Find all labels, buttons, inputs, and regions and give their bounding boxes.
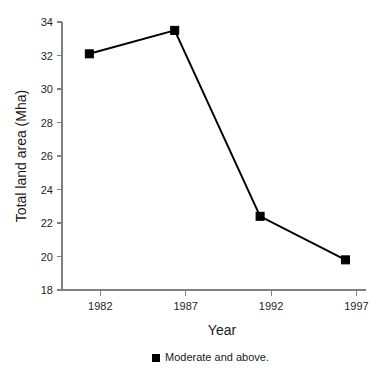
chart-legend: Moderate and above. [152,351,269,363]
x-axis-title: Year [208,322,237,338]
y-axis-tick-group: 182022242628303234 [41,16,62,296]
series-marker-group [85,26,349,263]
y-tick-label: 34 [41,16,53,28]
y-tick-label: 26 [41,150,53,162]
data-point-marker [342,256,350,264]
data-point-marker [171,26,179,34]
line-chart: 182022242628303234 1982198719921997 Tota… [0,0,378,377]
legend-swatch [152,354,160,362]
y-tick-label: 18 [41,284,53,296]
chart-figure: 182022242628303234 1982198719921997 Tota… [0,0,378,377]
legend-label: Moderate and above. [165,351,269,363]
y-tick-label: 20 [41,251,53,263]
x-tick-label: 1982 [88,300,112,312]
y-tick-label: 32 [41,50,53,62]
data-point-marker [256,212,264,220]
x-tick-label: 1997 [344,300,368,312]
y-tick-label: 22 [41,217,53,229]
y-tick-label: 30 [41,83,53,95]
series-line-moderate-and-above [89,30,345,259]
x-axis-tick-group: 1982198719921997 [88,290,369,312]
y-tick-label: 24 [41,184,53,196]
y-axis-title: Total land area (Mha) [13,90,29,222]
y-tick-label: 28 [41,117,53,129]
x-tick-label: 1987 [173,300,197,312]
data-point-marker [85,50,93,58]
x-tick-label: 1992 [259,300,283,312]
